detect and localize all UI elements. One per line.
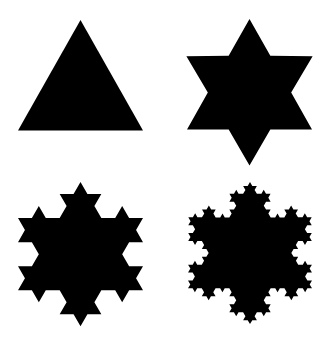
snowflake-canvas	[0, 0, 329, 339]
